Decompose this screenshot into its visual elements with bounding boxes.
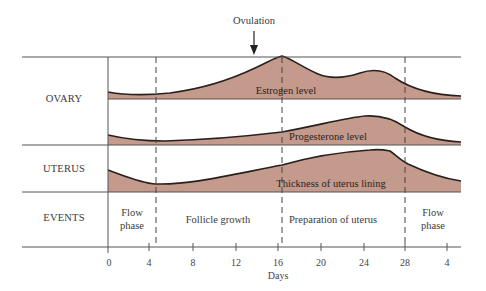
tick-label: 12 [231,257,241,268]
event-preparation-of-uterus: Preparation of uterus [289,213,377,226]
tick-label: 8 [191,257,196,268]
tick-label: 28 [400,257,410,268]
tick-label: 20 [316,257,326,268]
row-label-ovary: OVARY [46,93,82,104]
event-flow-phase-end: Flowphase [421,206,445,232]
x-axis-label: Days [268,270,289,281]
event-follicle-growth: Follicle growth [186,213,250,226]
tick-label: 24 [359,257,369,268]
progesterone-label: Progesterone level [289,131,367,142]
tick-label: 0 [107,257,112,268]
ovulation-arrow-icon [250,31,258,55]
estrogen-label: Estrogen level [256,85,316,96]
uterus-lining-label: Thickness of uterus lining [276,178,385,189]
ovulation-label: Ovulation [233,15,275,26]
row-label-uterus: UTERUS [43,163,85,174]
event-flow-phase-start: Flowphase [120,206,144,232]
tick-label: 16 [273,257,283,268]
tick-label: 4 [445,257,450,268]
row-label-events: EVENTS [43,212,84,223]
cycle-diagram [0,0,486,291]
tick-label: 4 [147,257,152,268]
